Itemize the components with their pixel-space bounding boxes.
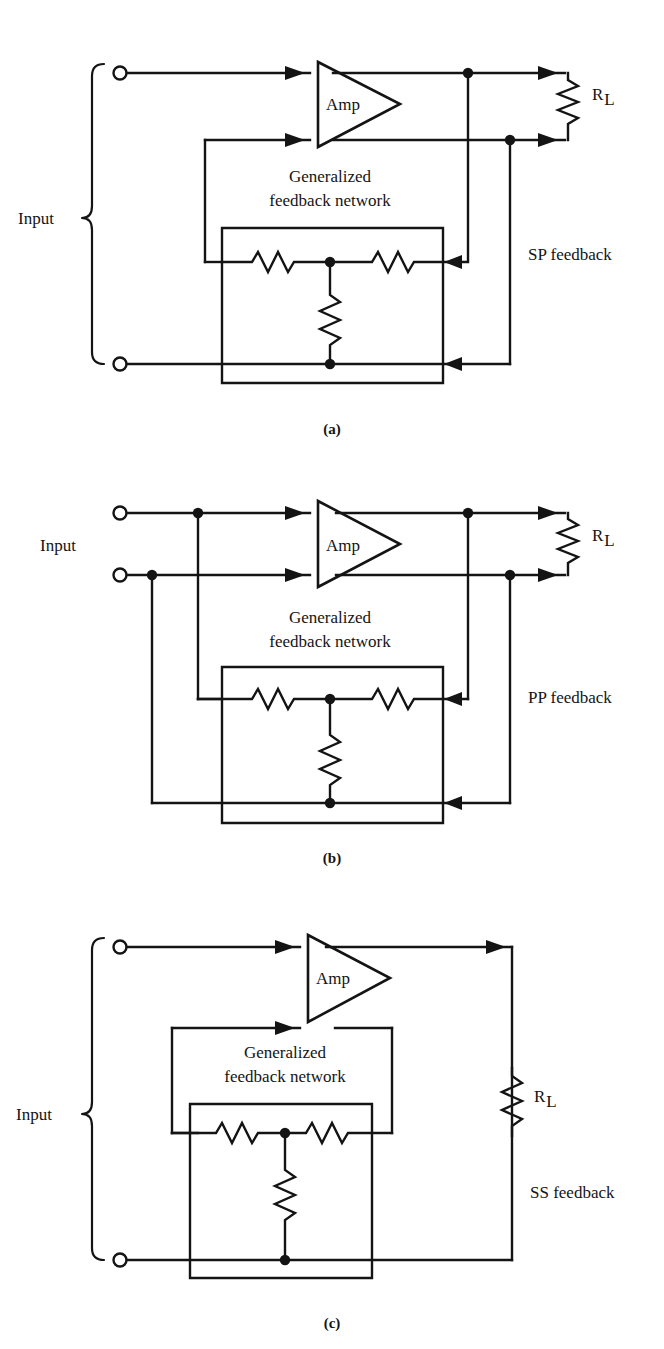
input-terminal-top-c [114,941,127,954]
input-terminal-bottom-c [114,1254,127,1267]
load-resistor-a [558,73,578,140]
input-terminal-bottom-a [114,358,127,371]
load-label-c: RL [534,1087,557,1111]
amp-label-c: Amp [316,969,350,988]
resistor-shunt-b [320,699,340,803]
resistor-shunt-c [275,1133,295,1260]
arrow-out-right-c [486,940,506,954]
resistor-right-c [285,1123,392,1143]
load-subscript-b: L [604,531,614,550]
resistor-shunt-a [320,262,340,364]
input-terminal-top-b [114,507,127,520]
input-terminal-top-a [114,67,127,80]
junction-t-bottom-b [325,798,335,808]
load-symbol-b: R [592,526,604,545]
arrow-feedback-in-b [444,692,462,706]
arrow-return-bottom-a [444,357,462,371]
input-label-b: Input [40,536,76,555]
arrow-amp-in-bottom-b [285,568,305,582]
load-subscript-a: L [604,90,614,109]
load-symbol-c: R [534,1087,546,1106]
figure-panel-b: Input Amp RL PP feedback [0,455,664,880]
caption-a: (a) [323,421,341,438]
resistor-left-a [222,252,330,272]
figure-panel-a: Input Amp RL SP feedback Generaliz [0,0,664,455]
input-label-c: Input [16,1105,52,1124]
junction-t-center-b [325,694,335,704]
circuit-svg-b: Input Amp RL PP feedback [0,455,664,880]
network-label-line1-a: Generalized [289,167,372,186]
arrow-rl-top-b [538,506,558,520]
load-label-b: RL [592,526,615,550]
arrow-rl-top-a [538,66,558,80]
circuit-svg-c: Input Amp SS feedback RL Generalized fee… [0,880,664,1349]
network-label-line2-c: feedback network [224,1067,346,1086]
input-bracket-a [82,64,104,364]
network-label-line1-b: Generalized [289,608,372,627]
arrow-rl-bottom-a [538,133,558,147]
caption-c: (c) [324,1315,341,1332]
network-label-line2-b: feedback network [269,632,391,651]
input-label-a: Input [18,209,54,228]
caption-b: (b) [323,850,341,867]
arrow-amp-in-bottom-a [285,133,305,147]
network-label-line2-a: feedback network [269,191,391,210]
arrow-amp-in-top-c [275,940,295,954]
feedback-label-c: SS feedback [530,1183,615,1202]
load-subscript-c: L [546,1092,556,1111]
load-resistor-b [558,513,578,575]
resistor-left-b [198,689,330,709]
feedback-label-b: PP feedback [528,688,612,707]
input-terminal-bottom-b [114,569,127,582]
arrow-amp-in-top-b [285,506,305,520]
load-label-a: RL [592,85,615,109]
junction-t-center-c [280,1128,290,1138]
feedback-label-a: SP feedback [528,245,612,264]
junction-t-center-a [325,257,335,267]
input-bracket-c [82,938,104,1260]
arrow-rl-bottom-b [538,568,558,582]
amp-label-a: Amp [326,95,360,114]
network-label-line1-c: Generalized [244,1043,327,1062]
circuit-svg-a: Input Amp RL SP feedback Generaliz [0,0,664,455]
figure-panel-c: Input Amp SS feedback RL Generalized fee… [0,880,664,1349]
amp-label-b: Amp [326,536,360,555]
arrow-amp-in-bottom-c [275,1021,295,1035]
arrow-return-bottom-b [444,796,462,810]
load-symbol-a: R [592,85,604,104]
arrow-feedback-in-a [444,255,462,269]
arrow-amp-in-top-a [285,66,305,80]
